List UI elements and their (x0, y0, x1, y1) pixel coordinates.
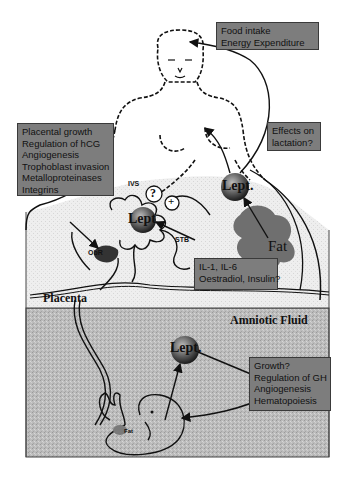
placental-effect-1: Placental growth (22, 126, 109, 138)
placental-effect-3: Angiogenesis (22, 149, 109, 161)
brain-effect-2: Energy Expenditure (221, 37, 314, 49)
placental-effect-6: Integrins (22, 184, 109, 196)
fetal-effect-4: Hematopoiesis (254, 395, 326, 407)
stb-label: STB (175, 236, 189, 243)
placental-effect-2: Regulation of hCG (22, 138, 109, 150)
brain-effect-1: Food intake (221, 25, 314, 37)
arrow-lept-to-brain (190, 42, 269, 173)
question-symbol: ? (150, 186, 156, 201)
lept-label-placental: Lept (128, 211, 156, 227)
lept-label-amniotic: Lept. (170, 340, 202, 356)
lept-label-maternal: Lept. (222, 178, 254, 194)
fetal-effect-3: Angiogenesis (254, 383, 326, 395)
fetal-effect-1: Growth? (254, 360, 326, 372)
regulators-box: IL-1, IL-6 Oestradiol, Insulin? (194, 258, 278, 290)
lactation-line-2: lactation? (272, 137, 316, 149)
placenta-label: Placenta (43, 291, 87, 306)
obr-label: ObR (88, 249, 103, 256)
placental-effects-box: Placental growth Regulation of hCG Angio… (17, 123, 114, 196)
regulator-line-2: Oestradiol, Insulin? (199, 273, 273, 285)
brain-effects-box: Food intake Energy Expenditure (216, 22, 319, 50)
arrow-lept-to-breast (205, 128, 230, 173)
ivs-label: IVS (128, 180, 139, 187)
placental-effect-4: Trophoblast invasion (22, 161, 109, 173)
fetal-effect-2: Regulation of GH (254, 372, 326, 384)
placental-effect-5: Metalloproteinases (22, 172, 109, 184)
fat-label-fetal: Fat (124, 428, 133, 434)
amniotic-fluid-label: Amniotic Fluid (230, 313, 308, 328)
fetal-effects-box: Growth? Regulation of GH Angiogenesis He… (249, 357, 331, 411)
regulator-line-1: IL-1, IL-6 (199, 261, 273, 273)
lactation-line-1: Effects on (272, 125, 316, 137)
lactation-box: Effects on lactation? (267, 122, 321, 151)
fat-label-maternal: Fat (268, 238, 287, 255)
plus-symbol: + (168, 195, 174, 207)
